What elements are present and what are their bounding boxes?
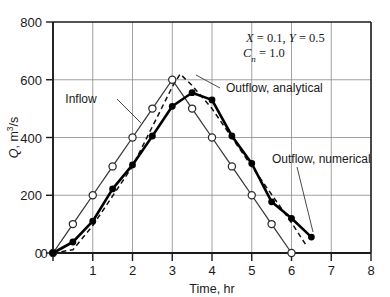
outflow-numerical-point <box>288 215 295 222</box>
y-axis-label: Q, m3/s <box>5 117 21 159</box>
x-tick-label-1: 1 <box>89 263 96 278</box>
inflow-point <box>189 105 196 112</box>
outflow-analytical-label: Outflow, analytical <box>226 81 323 95</box>
outflow-numerical-point <box>189 89 196 96</box>
x-tick-label-7: 7 <box>328 263 335 278</box>
x-tick-label-8: 8 <box>367 263 374 278</box>
outflow-numerical-point <box>169 103 176 110</box>
x-tick-label-5: 5 <box>248 263 255 278</box>
inflow-point <box>69 221 76 228</box>
y-tick-label-200: 200 <box>20 188 42 203</box>
outflow-numerical-point <box>248 160 255 167</box>
inflow-point <box>288 249 295 256</box>
inflow-leader-line <box>117 99 141 123</box>
x-tick-labels: 0 1 2 3 4 5 6 7 8 <box>40 246 374 278</box>
outflow-analytical-leader-line <box>196 75 220 88</box>
outflow-numerical-point <box>70 239 77 246</box>
y-tick-labels: 800 600 400 200 0 <box>20 15 42 261</box>
outflow-numerical-label: Outflow, numerical <box>272 152 371 166</box>
x-tick-label-4: 4 <box>208 263 215 278</box>
x-tick-label-2: 2 <box>129 263 136 278</box>
x-axis-label: Time, hr <box>189 282 234 296</box>
y-axis-ticks <box>46 22 53 253</box>
outflow-numerical-point <box>209 97 216 104</box>
outflow-numerical-point <box>109 186 116 193</box>
inflow-point <box>248 192 255 199</box>
x-tick-label-3: 3 <box>169 263 176 278</box>
chart-figure: 800 600 400 200 0 0 1 2 3 4 5 6 7 8 Time… <box>0 0 390 297</box>
outflow-numerical-point <box>50 250 57 257</box>
inflow-point <box>228 163 235 170</box>
outflow-numerical-line <box>53 93 311 253</box>
inflow-label: Inflow <box>65 92 97 106</box>
parameter-line-2: Cn = 1.0 <box>243 46 285 64</box>
outflow-numerical-point <box>149 133 156 140</box>
param-c-value: = 1.0 <box>259 46 285 60</box>
inflow-point <box>149 105 156 112</box>
inflow-point <box>169 76 176 83</box>
hydrograph-chart: 800 600 400 200 0 0 1 2 3 4 5 6 7 8 Time… <box>0 0 390 297</box>
y-tick-label-600: 600 <box>20 73 42 88</box>
inflow-point <box>268 221 275 228</box>
param-y-value: = 0.5 <box>299 31 325 45</box>
outflow-numerical-point <box>268 198 275 205</box>
outflow-numerical-leader-line <box>297 167 313 232</box>
y-tick-label-800: 800 <box>20 15 42 30</box>
param-x-value: = 0.1, <box>257 31 286 45</box>
inflow-point <box>89 192 96 199</box>
outflow-numerical-point <box>308 234 315 241</box>
y-tick-label-400: 400 <box>20 131 42 146</box>
x-tick-label-0: 0 <box>40 246 47 261</box>
outflow-numerical-point <box>89 218 96 225</box>
inflow-point <box>109 163 116 170</box>
parameter-line-1: X = 0.1, Y = 0.5 <box>245 31 325 45</box>
inflow-point <box>129 134 136 141</box>
x-axis-ticks <box>53 253 371 261</box>
x-tick-label-6: 6 <box>288 263 295 278</box>
outflow-numerical-point <box>129 162 136 169</box>
outflow-numerical-point <box>229 133 236 140</box>
series-outflow-numerical <box>50 89 315 256</box>
parameter-annotation: X = 0.1, Y = 0.5 Cn = 1.0 <box>243 31 325 64</box>
inflow-point <box>208 134 215 141</box>
outflow-numerical-markers <box>50 89 315 256</box>
